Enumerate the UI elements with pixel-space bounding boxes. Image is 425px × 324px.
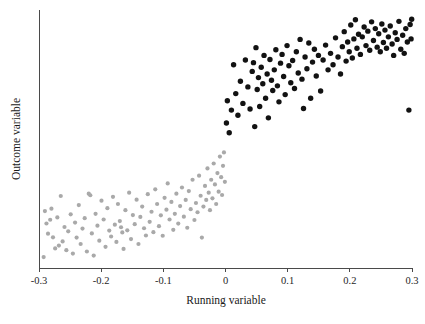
treatment-data-point (406, 107, 411, 112)
treatment-data-point (286, 63, 291, 68)
control-data-point (190, 178, 194, 182)
treatment-data-point (272, 67, 277, 72)
treatment-data-point (384, 45, 389, 50)
treatment-data-point (381, 40, 386, 45)
treatment-group-points (224, 17, 415, 136)
control-data-point (142, 226, 146, 230)
treatment-data-point (290, 58, 295, 63)
treatment-data-point (227, 130, 232, 135)
control-data-point (203, 184, 207, 188)
control-data-point (144, 233, 148, 237)
treatment-data-point (365, 28, 370, 33)
treatment-data-point (282, 92, 287, 97)
treatment-data-point (229, 107, 234, 112)
treatment-data-point (391, 53, 396, 58)
control-data-point (55, 215, 59, 219)
control-data-point (140, 205, 144, 209)
control-data-point (49, 207, 53, 211)
control-data-point (195, 210, 199, 214)
control-data-point (92, 254, 96, 258)
chart-canvas: -0.3-0.2-0.100.10.20.3 Running variable … (0, 0, 425, 324)
treatment-data-point (292, 86, 297, 91)
treatment-data-point (252, 124, 257, 129)
treatment-data-point (312, 47, 317, 52)
control-data-point (218, 154, 222, 158)
treatment-data-point (394, 37, 399, 42)
control-data-point (161, 234, 165, 238)
treatment-data-point (342, 29, 347, 34)
control-data-point (212, 161, 216, 165)
control-data-point (69, 212, 73, 216)
control-data-point (192, 218, 196, 222)
control-data-point (187, 189, 191, 193)
control-data-point (118, 219, 122, 223)
treatment-data-point (323, 42, 328, 47)
treatment-data-point (231, 62, 236, 67)
x-axis-ticks: -0.3-0.2-0.100.10.20.3 (31, 268, 419, 286)
control-data-point (93, 212, 97, 216)
axes-group: -0.3-0.2-0.100.10.20.3 (31, 10, 419, 286)
control-data-point (171, 228, 175, 232)
control-data-point (155, 202, 159, 206)
control-data-point (184, 198, 188, 202)
treatment-data-point (350, 55, 355, 60)
treatment-data-point (251, 60, 256, 65)
control-data-point (178, 204, 182, 208)
treatment-data-point (318, 88, 323, 93)
control-data-point (217, 190, 221, 194)
treatment-data-point (367, 48, 372, 53)
treatment-data-point (388, 23, 393, 28)
treatment-data-point (245, 84, 250, 89)
treatment-data-point (264, 71, 269, 76)
treatment-data-point (299, 76, 304, 81)
control-data-point (51, 235, 55, 239)
treatment-data-point (276, 99, 281, 104)
treatment-data-point (233, 91, 238, 96)
control-data-point (71, 251, 75, 255)
treatment-data-point (386, 34, 391, 39)
treatment-data-point (281, 74, 286, 79)
treatment-data-point (378, 49, 383, 54)
x-axis-tick-label: -0.3 (31, 275, 48, 286)
control-data-point (59, 194, 63, 198)
control-data-point (133, 222, 137, 226)
control-data-point (221, 164, 225, 168)
control-data-point (200, 235, 204, 239)
control-data-point (169, 200, 173, 204)
treatment-data-point (224, 120, 229, 125)
plot-points-group (42, 17, 415, 260)
treatment-data-point (330, 62, 335, 67)
control-data-point (174, 192, 178, 196)
control-data-point (164, 208, 168, 212)
control-data-point (102, 217, 106, 221)
control-data-point (77, 203, 81, 207)
treatment-data-point (269, 77, 274, 82)
control-data-point (114, 240, 118, 244)
control-data-point (109, 234, 113, 238)
control-data-point (194, 201, 198, 205)
control-data-point (129, 237, 133, 241)
control-data-point (166, 181, 170, 185)
treatment-data-point (393, 30, 398, 35)
control-data-point (210, 196, 214, 200)
control-data-point (159, 213, 163, 217)
control-data-point (146, 192, 150, 196)
treatment-data-point (396, 19, 401, 24)
control-data-point (113, 223, 117, 227)
control-data-point (219, 175, 223, 179)
treatment-data-point (267, 57, 272, 62)
control-data-point (61, 239, 65, 243)
treatment-data-point (297, 37, 302, 42)
treatment-data-point (284, 43, 289, 48)
treatment-data-point (238, 79, 243, 84)
treatment-data-point (358, 52, 363, 57)
control-data-point (208, 208, 212, 212)
treatment-data-point (273, 47, 278, 52)
control-data-point (148, 220, 152, 224)
treatment-data-point (343, 58, 348, 63)
control-data-point (97, 239, 101, 243)
control-data-point (176, 222, 180, 226)
x-axis-tick-label: 0 (223, 275, 228, 286)
control-data-point (197, 174, 201, 178)
control-data-point (125, 228, 129, 232)
